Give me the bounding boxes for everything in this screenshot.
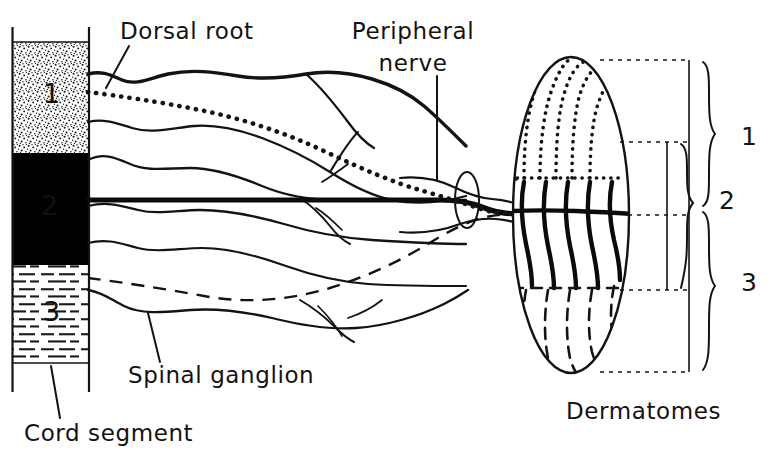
zone-brackets: [681, 62, 715, 370]
label-cord-segment: Cord segment: [24, 420, 193, 446]
bracket-label-zone-1: 1: [741, 122, 758, 151]
bracket-zone-1: [703, 62, 715, 206]
ventral-root-lower-edge: [88, 204, 466, 244]
ganglion-upper-edge: [88, 241, 466, 286]
label-dermatomes: Dermatomes: [566, 398, 721, 424]
cord-segment-3-number: 3: [43, 296, 61, 327]
label-dorsal-root: Dorsal root: [120, 18, 254, 44]
ventral-root-branch-b: [316, 208, 342, 230]
bracket-label-zone-2: 2: [719, 186, 736, 215]
bracket-zone-2: [681, 144, 693, 288]
dermatome-extent-rails: [667, 60, 689, 372]
bracket-label-zone-3: 3: [741, 268, 758, 297]
dorsal-root-upper-edge: [88, 71, 466, 146]
nerve-root-outlines: [88, 71, 468, 342]
cord-segment-1-number: 1: [43, 78, 61, 109]
label-peripheral-nerve-line1: Peripheral: [338, 18, 488, 44]
leader-cord-segment: [51, 366, 60, 418]
leader-spinal-ganglion: [148, 313, 160, 362]
figure-canvas: Dorsal root Peripheral nerve Spinal gang…: [0, 0, 770, 458]
sympathetic-nerve-fiber-dashed: [88, 214, 520, 300]
dermatome-field: [496, 52, 632, 382]
ganglion-lower-edge: [88, 290, 468, 328]
label-spinal-ganglion: Spinal ganglion: [128, 362, 314, 388]
label-peripheral-nerve-line2: nerve: [338, 50, 488, 76]
ganglion-branch-a: [300, 300, 354, 342]
dorsal-root-branch-a: [306, 74, 374, 148]
bracket-zone-3: [703, 212, 715, 370]
cord-segment-2-number: 2: [41, 190, 59, 221]
ganglion-branch-c: [348, 300, 382, 318]
